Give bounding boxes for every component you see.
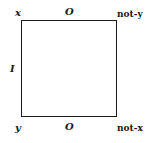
corner-label-top-left: x <box>15 8 21 18</box>
side-label-bottom: O <box>65 122 74 132</box>
corner-label-bottom-right: not-x <box>117 123 143 133</box>
corner-label-top-right: not-y <box>117 9 143 19</box>
square-diagram <box>21 20 117 117</box>
corner-label-bottom-left: y <box>15 123 21 133</box>
side-label-top: O <box>65 7 74 17</box>
side-label-left: I <box>10 64 15 74</box>
